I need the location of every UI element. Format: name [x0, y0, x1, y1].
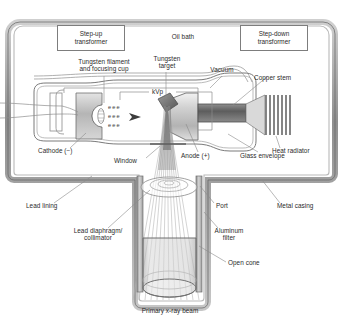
aluminum-filter-shape: [141, 177, 197, 197]
open-cone-label: Open cone: [228, 259, 280, 266]
port-label: Port: [216, 202, 246, 209]
lead-lining-label: Lead lining: [26, 202, 80, 209]
step-down-transformer-box: Step-down transformer: [240, 25, 308, 51]
glass-envelope-label: Glass envelope: [240, 152, 302, 159]
vacuum-label: Vacuum: [201, 66, 243, 73]
cathode-label: Cathode (−): [38, 147, 88, 154]
electrons-row-2: eee: [108, 113, 121, 119]
electrons-row-3: eee: [108, 122, 121, 128]
metal-casing-label: Metal casing: [277, 202, 335, 209]
oil-bath-label: Oil bath: [155, 33, 211, 40]
window-label: Window: [114, 157, 150, 164]
anode-label: Anode (+): [181, 152, 223, 159]
open-cone-shape: [143, 238, 196, 297]
aluminum-filter-label: Aluminum filter: [206, 227, 252, 242]
tungsten-filament-label: Tungsten filament and focusing cup: [62, 58, 146, 73]
xray-tube-diagram: Step-up transformer Step-down transforme…: [0, 0, 343, 326]
copper-stem-label: Copper stem: [254, 74, 314, 81]
electrons-row-1: eee: [108, 104, 121, 110]
tungsten-target-label: Tungsten target: [146, 55, 188, 70]
primary-xray-beam-label: Primary x-ray beam: [110, 307, 230, 314]
lead-diaphragm-collimator-label: Lead diaphragm/ collimator: [62, 227, 134, 242]
step-up-transformer-box: Step-up transformer: [57, 25, 125, 51]
kvp-label: kVp: [152, 88, 176, 95]
